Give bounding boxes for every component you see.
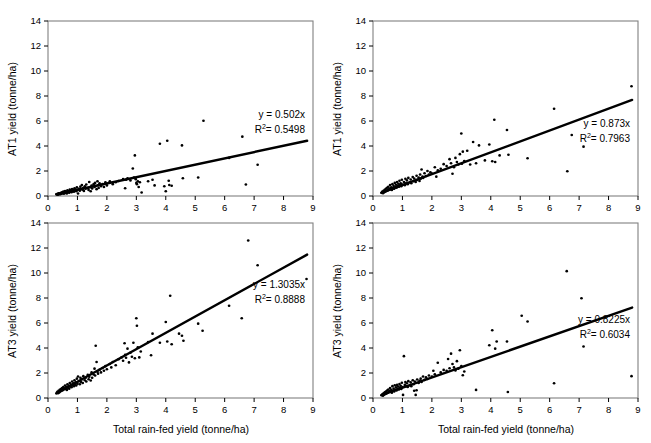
x-tick-label: 2 [429, 404, 434, 415]
data-point [507, 391, 510, 394]
data-point [416, 378, 419, 381]
y-tick-label: 2 [361, 165, 366, 176]
data-point [164, 190, 167, 193]
data-point [197, 322, 200, 325]
data-point [420, 168, 423, 171]
x-tick-label: 0 [45, 404, 50, 415]
y-tick-label: 6 [36, 115, 41, 126]
y-tick-label: 0 [361, 190, 366, 201]
data-point [151, 178, 154, 181]
data-point [466, 149, 469, 152]
data-point [135, 317, 138, 320]
data-point [488, 344, 491, 347]
data-point [415, 174, 418, 177]
panel-bottom-right-canvas: 02468101214 0123456789 AT3 yield (tonne/… [325, 205, 651, 443]
data-point [114, 364, 117, 367]
r-squared-value: = 0.8888 [266, 294, 306, 305]
y-tick-label: 8 [36, 90, 41, 101]
data-point [507, 153, 510, 156]
x-tick-label: 6 [547, 404, 552, 415]
data-point [106, 368, 109, 371]
data-point [413, 389, 416, 392]
data-point [398, 179, 401, 182]
data-point [448, 158, 451, 161]
panel-top-right: 02468101214 0123456789 AT1 yield (tonne/… [325, 0, 651, 222]
x-tick-label: 7 [251, 404, 256, 415]
data-point [580, 297, 583, 300]
panel-top-right-canvas: 02468101214 0123456789 AT1 yield (tonne/… [325, 0, 651, 222]
y-tick-label: 12 [30, 242, 41, 253]
data-point [256, 264, 259, 267]
x-tick-label: 4 [163, 404, 168, 415]
data-point [451, 363, 454, 366]
data-point [150, 354, 153, 357]
x-axis-title: Total rain-fed yield (tonne/ha) [438, 423, 574, 435]
data-point [406, 179, 409, 182]
x-tick-label: 2 [104, 404, 109, 415]
data-point [495, 340, 498, 343]
r-squared-value: = 0.5498 [266, 124, 306, 135]
y-tick-label: 12 [355, 242, 366, 253]
data-point [131, 355, 134, 358]
data-point [494, 161, 497, 164]
x-tick-label: 9 [635, 404, 640, 415]
data-point [97, 372, 100, 375]
y-tick-label: 14 [30, 217, 41, 228]
x-axis-ticks: 0123456789 [45, 398, 315, 415]
data-point [125, 356, 128, 359]
x-tick-label: 4 [488, 404, 493, 415]
data-point [124, 187, 127, 190]
plot-area-bottom-left: 02468101214 0123456789 [30, 217, 315, 415]
data-point [415, 389, 418, 392]
plot-frame [48, 223, 313, 398]
data-point [81, 382, 84, 385]
data-point [566, 170, 569, 173]
r-squared-prefix: R [580, 133, 587, 144]
y-axis-title: AT1 yield (tonne/ha) [6, 62, 18, 156]
r-squared-prefix: R [255, 294, 262, 305]
data-point [419, 377, 422, 380]
panel-bottom-right: 02468101214 0123456789 AT3 yield (tonne/… [325, 205, 651, 443]
data-point [407, 380, 410, 383]
data-point [201, 329, 204, 332]
r-squared-value: = 0.7963 [591, 133, 631, 144]
y-tick-label: 10 [30, 65, 41, 76]
data-point [178, 332, 181, 335]
data-point [94, 182, 97, 185]
data-point [110, 366, 113, 369]
x-tick-label: 8 [606, 404, 611, 415]
equation-text: y = 0.8225x [578, 314, 630, 325]
data-point [432, 369, 435, 372]
data-point [256, 163, 259, 166]
data-point [419, 173, 422, 176]
y-tick-label: 2 [36, 165, 41, 176]
data-point [140, 191, 143, 194]
data-point [475, 389, 478, 392]
data-point [131, 167, 134, 170]
data-point [85, 183, 88, 186]
y-tick-label: 6 [361, 115, 366, 126]
data-point [166, 340, 169, 343]
y-tick-label: 12 [355, 40, 366, 51]
data-point [463, 370, 466, 373]
data-point [402, 394, 405, 397]
data-point [245, 183, 248, 186]
data-point [630, 85, 633, 88]
data-point [448, 367, 451, 370]
data-point [128, 361, 131, 364]
data-point [488, 143, 491, 146]
data-point [169, 294, 172, 297]
data-point [85, 380, 88, 383]
y-tick-label: 12 [30, 40, 41, 51]
data-point [403, 355, 406, 358]
data-point [442, 369, 445, 372]
data-point [94, 344, 97, 347]
data-point [305, 278, 308, 281]
data-point [630, 375, 633, 378]
data-point [423, 172, 426, 175]
data-point [526, 157, 529, 160]
y-tick-label: 10 [355, 267, 366, 278]
x-tick-label: 9 [310, 404, 315, 415]
r-squared-prefix: R [580, 329, 587, 340]
data-point [159, 142, 162, 145]
